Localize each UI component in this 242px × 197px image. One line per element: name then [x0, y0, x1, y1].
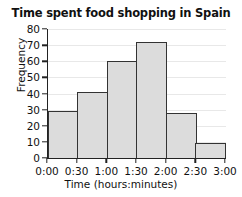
plot-area [47, 29, 226, 159]
histogram-chart: Time spent food shopping in Spain Freque… [0, 0, 242, 197]
y-axis-ticks: 01020304050607080 [0, 29, 47, 158]
x-axis-label: Time (hours:minutes) [0, 178, 242, 190]
x-tick-mark [135, 158, 136, 163]
chart-title: Time spent food shopping in Spain [0, 6, 242, 20]
y-tick-label: 80 [27, 23, 40, 35]
y-tick-label: 10 [27, 136, 40, 148]
y-tick-label: 30 [27, 104, 40, 116]
y-tick-label: 60 [27, 55, 40, 67]
x-tick-label: 2:00 [154, 165, 178, 177]
y-tick-label: 50 [27, 71, 40, 83]
x-tick-mark [195, 158, 196, 163]
bar-series [48, 29, 226, 158]
x-tick-label: 3:00 [213, 165, 237, 177]
bar [136, 42, 167, 158]
x-tick-label: 0:00 [35, 165, 59, 177]
bar [48, 111, 79, 158]
y-tick-label: 20 [27, 120, 40, 132]
x-tick-label: 2:30 [184, 165, 208, 177]
y-tick-label: 40 [27, 88, 40, 100]
bar [195, 143, 226, 158]
y-tick-label: 0 [33, 152, 40, 164]
x-tick-label: 1:30 [124, 165, 148, 177]
x-tick-mark [224, 158, 225, 163]
y-tick-label: 70 [27, 39, 40, 51]
x-tick-mark [106, 158, 107, 163]
x-tick-label: 0:30 [65, 165, 89, 177]
x-tick-mark [165, 158, 166, 163]
bar [107, 61, 138, 158]
bar [77, 92, 108, 158]
x-tick-label: 1:00 [95, 165, 119, 177]
x-tick-mark [46, 158, 47, 163]
x-axis-ticks: 0:000:301:001:302:002:303:00 [47, 158, 225, 180]
x-tick-mark [76, 158, 77, 163]
bar [166, 113, 197, 158]
